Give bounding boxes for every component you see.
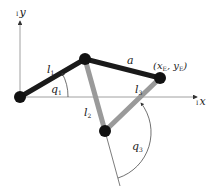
q1-arc <box>62 73 68 97</box>
x-axis-label: Ix <box>196 95 206 108</box>
label-a: a <box>127 54 134 67</box>
base-joint <box>14 91 26 103</box>
joint-end-effector <box>154 72 166 84</box>
y-axis-label: Iy <box>16 6 26 19</box>
label-l3: l3 <box>135 83 143 96</box>
label-q3: q3 <box>132 140 143 153</box>
end-effector-label: (xE, yE) <box>153 60 187 72</box>
label-l1: l1 <box>47 63 54 76</box>
label-l2: l2 <box>84 106 92 119</box>
manipulator-diagram: Iy Ix l1 a l2 l3 q1 q3 (xE, yE) <box>0 0 216 194</box>
link-a <box>85 59 160 78</box>
joint-top <box>79 53 91 65</box>
joint-bottom <box>99 125 111 137</box>
link-l2 <box>85 59 105 131</box>
label-q1: q1 <box>51 83 62 96</box>
link-l3 <box>105 78 160 131</box>
q3-reference-line <box>105 131 120 186</box>
